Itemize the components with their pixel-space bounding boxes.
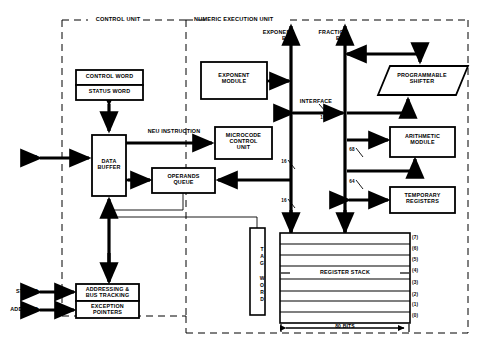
bus-width-ticks (288, 110, 363, 208)
interface-leader-line (319, 104, 326, 112)
programmable-shifter-shape (378, 66, 468, 95)
register-stack-shape (280, 233, 410, 323)
shifter-to-interface-arrow (347, 99, 410, 113)
arithmetic-feedback-arrow (347, 159, 415, 171)
fraction-bus-to-shifter-path (347, 54, 420, 62)
stack-width-measure (281, 324, 409, 332)
tag-word-shape (250, 228, 265, 315)
bus-to-register-stack-arrows (291, 210, 345, 232)
tag-word-feedback-line (112, 217, 257, 228)
diagram-svg (0, 0, 487, 348)
block-diagram-canvas: CONTROL UNIT NUMERIC EXECUTION UNIT CONT… (0, 0, 487, 348)
